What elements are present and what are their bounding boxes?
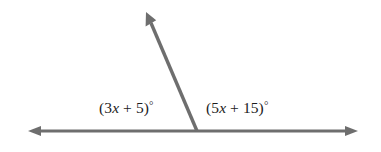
right-angle-degree-icon: ° — [264, 99, 269, 111]
right-angle-label: (5x + 15)° — [206, 99, 268, 117]
left-angle-label: (3x + 5)° — [99, 99, 154, 117]
angle-diagram — [0, 0, 381, 152]
upper-ray-line — [151, 23, 197, 131]
right-angle-coefficient: 5 — [211, 99, 219, 116]
right-ray — [197, 126, 358, 136]
left-angle-degree-icon: ° — [149, 99, 154, 111]
left-angle-constant: 5 — [136, 99, 144, 116]
left-ray — [28, 126, 197, 136]
right-angle-operator: + — [226, 99, 243, 116]
right-arrowhead-icon — [345, 126, 358, 136]
left-angle-operator: + — [119, 99, 136, 116]
left-angle-coefficient: 3 — [104, 99, 112, 116]
left-arrowhead-icon — [28, 126, 41, 136]
right-angle-constant: 15 — [243, 99, 259, 116]
